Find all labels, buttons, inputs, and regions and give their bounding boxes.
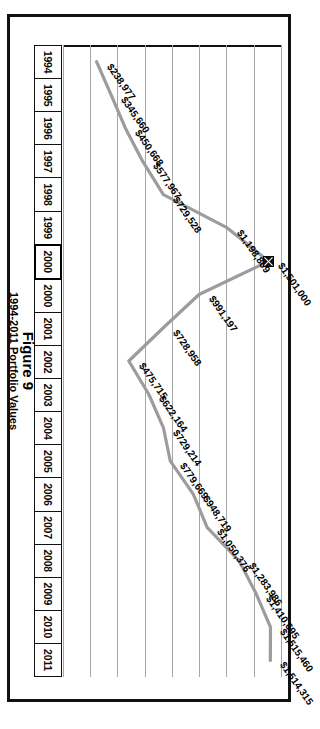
year-cell-2007-14: 2007 — [34, 511, 62, 544]
year-cell-1997-3: 1997 — [34, 144, 62, 177]
figure-border-box: $238,977$345,660$450,668$577,967$729,528… — [7, 14, 291, 702]
figure-subtitle: 1994-2011 Portfolio Values — [8, 17, 20, 705]
year-cell-2009-16: 2009 — [34, 577, 62, 610]
year-cell-1999-5: 1999 — [34, 211, 62, 244]
line-chart: $238,977$345,660$450,668$577,967$729,528… — [10, 17, 294, 705]
year-cell-2002-9: 2002 — [34, 345, 62, 378]
year-cell-1994-0: 1994 — [34, 45, 62, 78]
portfolio-value-series — [64, 45, 282, 677]
year-cell-2000-7: 2000 — [34, 280, 62, 312]
plot-area: $238,977$345,660$450,668$577,967$729,528… — [64, 45, 282, 677]
year-cell-1998-4: 1998 — [34, 177, 62, 210]
year-cell-1995-1: 1995 — [34, 78, 62, 111]
year-cell-2004-11: 2004 — [34, 411, 62, 444]
year-cell-2005-12: 2005 — [34, 444, 62, 477]
year-cell-1996-2: 1996 — [34, 111, 62, 144]
year-cell-2008-15: 2008 — [34, 544, 62, 577]
year-axis: 1994199519961997199819992000200020012002… — [34, 45, 62, 677]
rotated-chart-stage: $238,977$345,660$450,668$577,967$729,528… — [10, 17, 294, 705]
year-cell-2010-17: 2010 — [34, 610, 62, 643]
figure-title: Figure 9 — [20, 17, 36, 705]
year-cell-2003-10: 2003 — [34, 378, 62, 411]
year-cell-2011-18: 2011 — [34, 643, 62, 677]
figure-page: $238,977$345,660$450,668$577,967$729,528… — [0, 0, 320, 729]
year-cell-2000-6: 2000 — [34, 244, 62, 280]
year-cell-2006-13: 2006 — [34, 477, 62, 510]
figure-caption: Figure 9 1994-2011 Portfolio Values — [8, 17, 36, 705]
peak-value-marker — [263, 256, 274, 267]
year-cell-2001-8: 2001 — [34, 312, 62, 345]
